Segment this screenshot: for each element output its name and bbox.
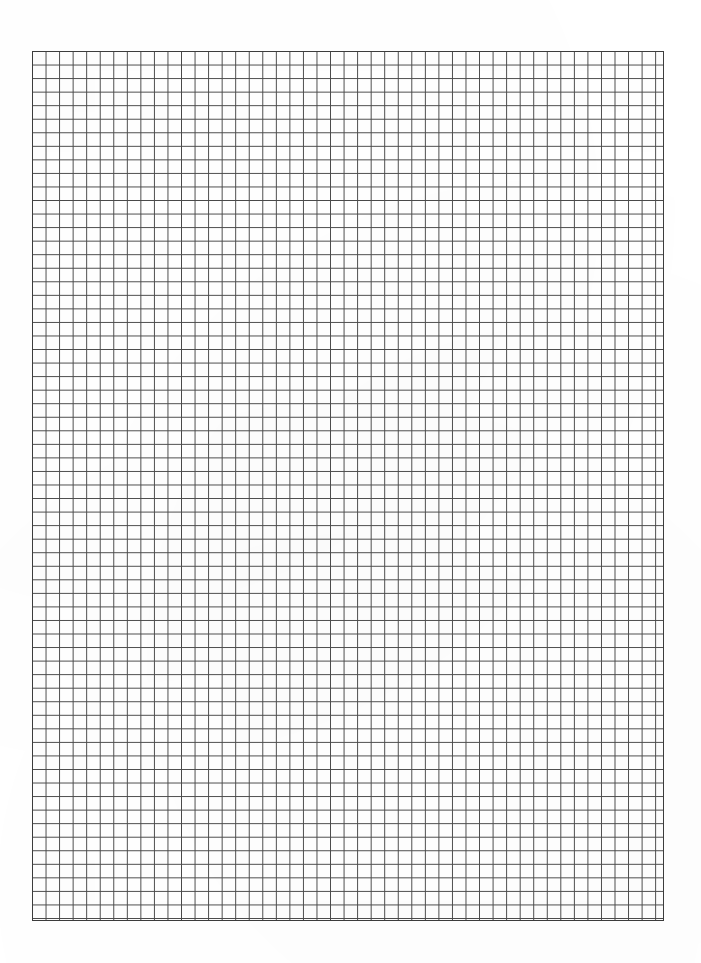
grid-area [32,51,664,921]
graph-paper-page [0,0,701,963]
